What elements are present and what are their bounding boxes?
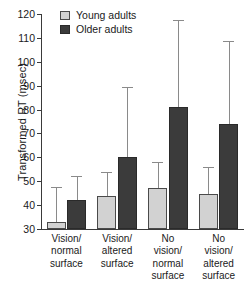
y-tick-label: 100 xyxy=(17,57,35,68)
y-tick-label: 120 xyxy=(17,9,35,20)
x-category-label: No vision/ normal surface xyxy=(143,233,194,283)
error-bar-cap xyxy=(223,41,234,42)
error-bar-cap xyxy=(101,172,112,173)
x-axis-category-labels: Vision/ normal surfaceVision/ altered su… xyxy=(41,233,244,286)
y-tick-mark xyxy=(37,133,41,134)
error-bar-stem xyxy=(208,167,209,194)
error-bar-stem xyxy=(127,87,128,157)
bar-young xyxy=(97,196,116,229)
bar-older xyxy=(67,200,86,229)
bar-older xyxy=(169,107,188,229)
error-bar-stem xyxy=(178,20,179,107)
y-tick-mark xyxy=(37,157,41,158)
error-bar-cap xyxy=(203,167,214,168)
y-tick-mark xyxy=(37,229,41,230)
y-tick-label: 110 xyxy=(18,33,35,44)
y-tick-label: 40 xyxy=(23,200,35,211)
y-tick-mark xyxy=(37,38,41,39)
y-tick-mark xyxy=(37,181,41,182)
error-bar-stem xyxy=(158,162,159,188)
x-category-label: Vision/ normal surface xyxy=(41,233,92,270)
y-tick-mark xyxy=(37,205,41,206)
y-tick-label: 60 xyxy=(23,152,35,163)
error-bar-stem xyxy=(229,41,230,123)
bar-young xyxy=(148,188,167,229)
legend-label-young: Young adults xyxy=(76,9,136,23)
error-bar-stem xyxy=(77,176,78,200)
error-bar-stem xyxy=(107,172,108,196)
error-bar-cap xyxy=(173,20,184,21)
y-tick-label: 90 xyxy=(23,80,35,91)
bar-young xyxy=(199,194,218,229)
bar-young xyxy=(47,222,66,229)
y-tick-mark xyxy=(37,86,41,87)
y-axis-line xyxy=(41,14,42,229)
legend-swatch-icon-young xyxy=(60,11,70,20)
error-bar-cap xyxy=(122,87,133,88)
bar-older xyxy=(118,157,137,229)
x-category-label: Vision/ altered surface xyxy=(92,233,143,270)
y-tick-label: 50 xyxy=(23,176,35,187)
bar-chart: Transformed RT (msec) 304050607080901001… xyxy=(0,0,248,286)
y-tick-mark xyxy=(37,62,41,63)
legend-item-young: Young adults xyxy=(60,9,136,23)
x-axis-line xyxy=(41,229,244,230)
legend-swatch-icon-older xyxy=(60,25,70,34)
legend-label-older: Older adults xyxy=(76,23,133,37)
y-tick-mark xyxy=(37,110,41,111)
plot-area: 30405060708090100110120 xyxy=(41,14,244,229)
y-tick-mark xyxy=(37,14,41,15)
error-bar-cap xyxy=(152,162,163,163)
y-tick-label: 30 xyxy=(23,224,35,235)
y-tick-label: 80 xyxy=(23,104,35,115)
y-tick-label: 70 xyxy=(23,128,35,139)
error-bar-cap xyxy=(51,187,62,188)
bar-older xyxy=(219,124,238,229)
x-category-label: No vision/ altered surface xyxy=(193,233,244,283)
error-bar-cap xyxy=(71,176,82,177)
legend: Young adults Older adults xyxy=(60,9,136,36)
error-bar-stem xyxy=(56,187,57,222)
legend-item-older: Older adults xyxy=(60,23,136,37)
